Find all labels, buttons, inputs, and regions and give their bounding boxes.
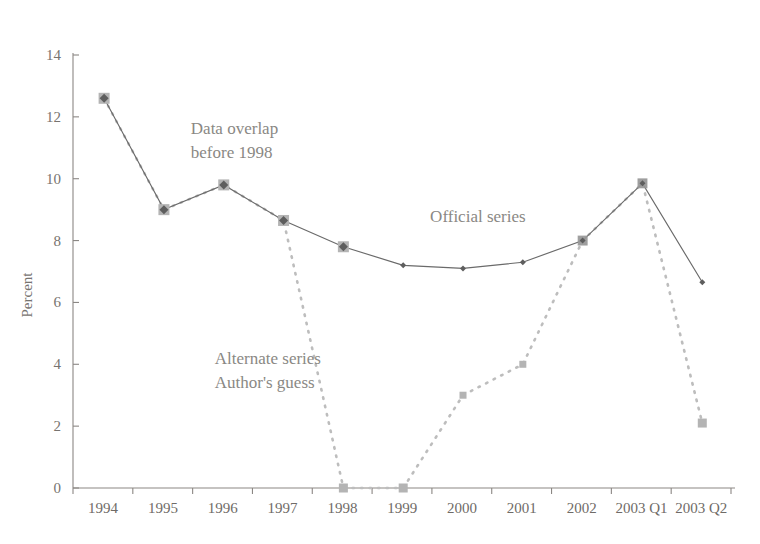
alternate-series-marker [339, 484, 348, 493]
y-axis-title: Percent [19, 272, 35, 318]
chart-container: 02468101214 1994199519961997199819992000… [0, 0, 760, 544]
series-official-series [99, 93, 706, 286]
x-axis-tick-label: 2000 [447, 500, 477, 516]
annotation-line: Author's guess [215, 373, 315, 392]
x-axis-tick-label: 1998 [327, 500, 357, 516]
y-axis-tick-label: 10 [46, 171, 61, 187]
x-axis-tick-label: 2002 [567, 500, 597, 516]
annotation-alternate-series: Alternate seriesAuthor's guess [215, 349, 321, 392]
y-axis-tick-label: 12 [46, 109, 61, 125]
y-axis-tick-label: 4 [54, 356, 62, 372]
x-axis-tick-label: 2003 Q2 [675, 500, 727, 516]
official-series-marker [699, 279, 705, 285]
annotation-line: Alternate series [215, 349, 321, 368]
official-series-marker-shape [460, 265, 466, 271]
x-axis-tick-labels: 1994199519961997199819992000200120022003… [88, 500, 727, 516]
y-axis-tick-label: 6 [54, 294, 62, 310]
official-series-marker [400, 262, 406, 268]
official-series-marker [460, 265, 466, 271]
annotation-line: Data overlap [191, 119, 278, 138]
official-series-marker [99, 93, 110, 104]
x-axis-tick-label: 1997 [268, 500, 299, 516]
annotation-line: Official series [430, 207, 526, 226]
official-series-marker [278, 215, 289, 226]
official-series-marker-shape [400, 262, 406, 268]
alternate-series-marker [698, 419, 707, 428]
official-series-marker-shape [520, 259, 526, 265]
x-axis-tick-label: 2001 [507, 500, 537, 516]
y-axis-tick-label: 2 [54, 418, 62, 434]
annotation-official-series: Official series [430, 207, 526, 226]
annotation-line: before 1998 [191, 143, 273, 162]
official-series-marker [218, 179, 229, 190]
y-axis-tick-labels: 02468101214 [46, 47, 62, 496]
official-series-marker [520, 259, 526, 265]
percent-line-chart: 02468101214 1994199519961997199819992000… [0, 0, 760, 544]
alternate-series-marker [460, 392, 467, 399]
y-axis-tick-label: 8 [54, 233, 62, 249]
x-axis-tick-label: 2003 Q1 [615, 500, 667, 516]
alternate-series-marker [519, 361, 526, 368]
official-series-marker [158, 204, 169, 215]
chart-annotations: Data overlapbefore 1998Official seriesAl… [191, 119, 526, 392]
x-axis-tick-label: 1999 [387, 500, 417, 516]
x-axis-tick-label: 1994 [88, 500, 119, 516]
official-series-marker [338, 241, 349, 252]
y-axis-tick-label: 0 [54, 480, 62, 496]
official-series-marker-shape [699, 279, 705, 285]
y-axis-tick-label: 14 [46, 47, 62, 63]
x-axis-tick-label: 1996 [208, 500, 239, 516]
x-axis-tick-label: 1995 [148, 500, 178, 516]
chart-axes [73, 53, 735, 494]
annotation-data-overlap: Data overlapbefore 1998 [191, 119, 278, 162]
alternate-series-marker [399, 484, 408, 493]
